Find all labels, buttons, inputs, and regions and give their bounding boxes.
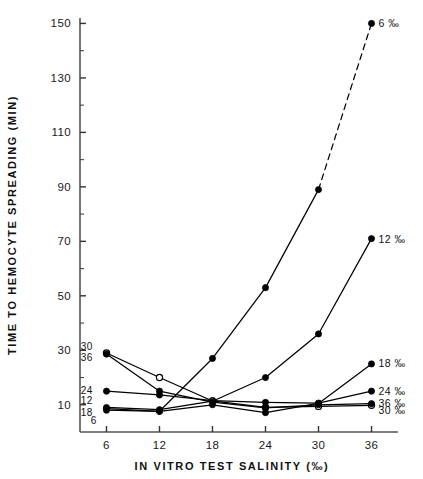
series-end-label: 36 ‰ — [379, 397, 406, 409]
x-tick-label: 30 — [312, 439, 326, 451]
series-start-label: 36 — [81, 352, 93, 363]
data-point — [156, 408, 162, 414]
line-chart: 1030507090110130150 61218243036 61218243… — [0, 0, 423, 479]
data-point — [315, 331, 321, 337]
x-axis-title: IN VITRO TEST SALINITY (‰) — [135, 460, 330, 472]
y-tick-label: 10 — [57, 399, 71, 411]
series-end-label: 18 ‰ — [379, 357, 406, 369]
data-point — [156, 388, 162, 394]
y-tick-label: 130 — [51, 72, 71, 84]
data-point — [103, 351, 109, 357]
data-point — [209, 399, 215, 405]
y-tick-label: 150 — [51, 17, 71, 29]
data-point — [209, 355, 215, 361]
series-start-label: 18 — [81, 407, 93, 418]
data-point — [368, 20, 374, 26]
chart-figure: 1030507090110130150 61218243036 61218243… — [0, 0, 423, 479]
series-end-label: 6 ‰ — [379, 17, 400, 29]
series-start-label: 24 — [81, 385, 93, 396]
series-start-label: 30 — [81, 341, 93, 352]
x-tick-label: 6 — [103, 439, 110, 451]
x-tick-label: 12 — [153, 439, 167, 451]
data-point — [262, 405, 268, 411]
series-end-label: 12 ‰ — [379, 233, 406, 245]
data-point — [368, 388, 374, 394]
data-point — [103, 388, 109, 394]
data-point — [368, 361, 374, 367]
y-tick-label: 50 — [57, 290, 71, 302]
data-point — [368, 401, 374, 407]
series-segment — [266, 402, 319, 403]
x-tick-label: 18 — [206, 439, 220, 451]
y-tick-label: 70 — [57, 235, 71, 247]
x-tick-label: 36 — [365, 439, 379, 451]
series-end-label: 24 ‰ — [379, 385, 406, 397]
data-point — [262, 285, 268, 291]
y-tick-label: 90 — [57, 181, 71, 193]
data-point — [368, 236, 374, 242]
data-point — [156, 374, 162, 380]
x-tick-label: 24 — [259, 439, 273, 451]
y-tick-label: 30 — [57, 344, 71, 356]
data-point — [315, 402, 321, 408]
data-point — [315, 186, 321, 192]
y-tick-label: 110 — [51, 126, 71, 138]
series-start-label: 12 — [81, 395, 93, 406]
y-axis-title: TIME TO HEMOCYTE SPREADING (MIN) — [6, 95, 18, 355]
data-point — [103, 405, 109, 411]
data-point — [262, 374, 268, 380]
